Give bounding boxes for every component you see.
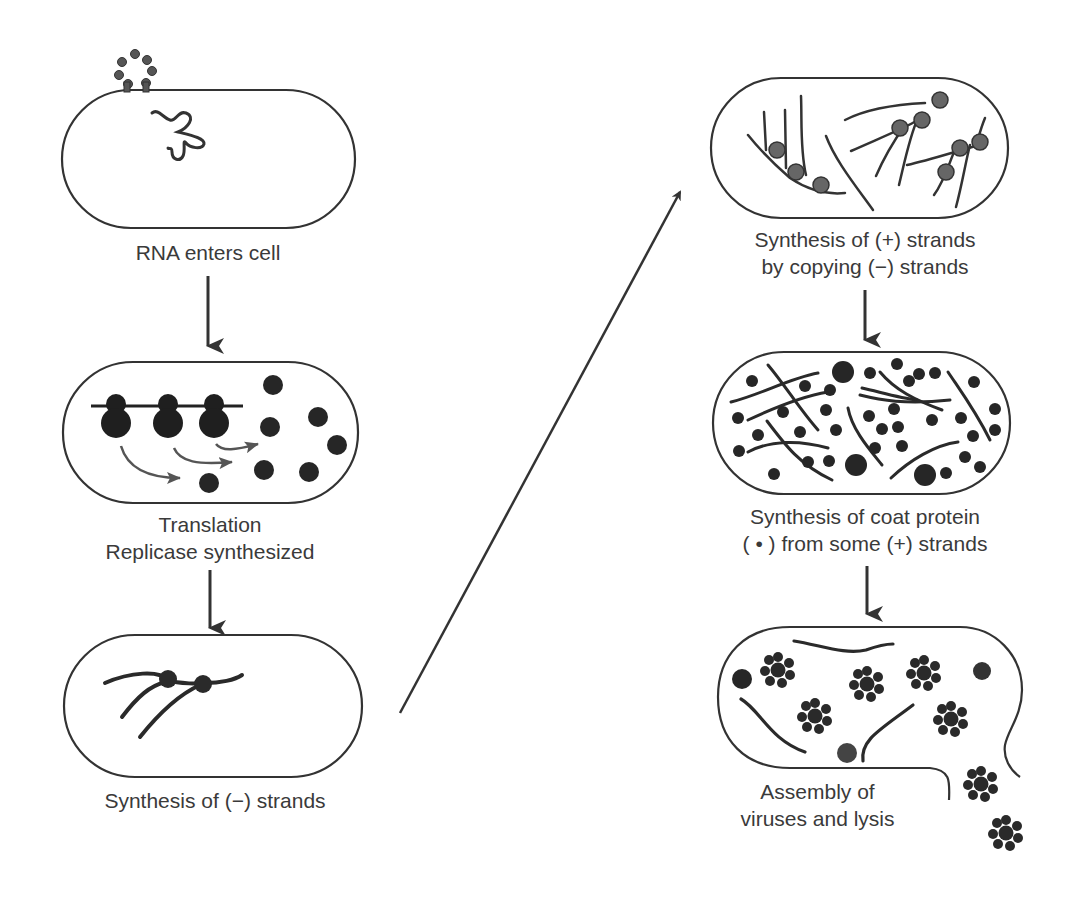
virus-particle-icon xyxy=(760,652,795,688)
diagonal-arrow-icon xyxy=(400,192,680,713)
rna-strand-icon xyxy=(122,682,165,717)
curved-arrow-icon xyxy=(216,444,258,449)
cell-rna-enters xyxy=(62,50,355,229)
step-label-assembly: Assembly of viruses and lysis xyxy=(710,778,925,832)
cell-minus-strands xyxy=(64,635,362,777)
coat-protein-icon xyxy=(732,669,752,689)
step-label-minus-strands: Synthesis of (−) strands xyxy=(60,787,370,814)
virus-particle-icon xyxy=(988,815,1023,851)
curved-arrow-icon xyxy=(174,448,232,463)
phage-capsid-icon xyxy=(115,50,157,93)
rna-strand-icon xyxy=(140,685,200,737)
curved-arrow-icon xyxy=(121,446,180,478)
virus-particle-icon xyxy=(849,666,884,702)
step-label-plus-strands: Synthesis of (+) strands by copying (−) … xyxy=(705,226,1025,280)
coat-protein-icon xyxy=(732,358,1001,486)
virus-particle-icon xyxy=(797,698,832,734)
replication-cycle-diagram xyxy=(0,0,1090,898)
coat-protein-icon xyxy=(837,743,857,763)
coat-protein-icon xyxy=(973,662,991,680)
virus-particle-icon xyxy=(933,701,968,737)
virus-particle-icon xyxy=(906,655,941,691)
bacterial-cell-icon xyxy=(64,635,362,777)
cell-plus-strands xyxy=(711,78,1008,218)
step-label-coat-protein: Synthesis of coat protein ( • ) from som… xyxy=(705,503,1025,557)
cell-coat-protein xyxy=(713,352,1010,494)
step-label-rna-enters: RNA enters cell xyxy=(108,239,308,266)
virus-particle-icon xyxy=(963,766,998,802)
cell-translation xyxy=(63,362,358,503)
bacterial-cell-icon xyxy=(62,90,355,228)
ribosome-icon xyxy=(101,394,229,438)
rna-strand-icon xyxy=(152,112,204,160)
step-label-translation: Translation Replicase synthesized xyxy=(60,511,360,565)
